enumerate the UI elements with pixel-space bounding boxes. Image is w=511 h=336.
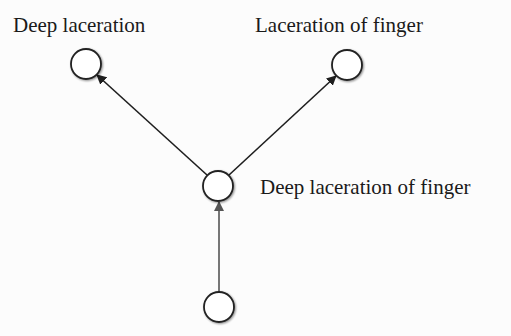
edge-middle-to-laceration-of-finger bbox=[229, 76, 336, 175]
node-laceration-of-finger[interactable] bbox=[332, 50, 362, 80]
node-bottom[interactable] bbox=[204, 292, 234, 322]
diagram-canvas: Deep laceration Laceration of finger Dee… bbox=[0, 0, 511, 336]
edge-middle-to-deep-laceration bbox=[97, 75, 207, 175]
label-deep-laceration-of-finger: Deep laceration of finger bbox=[260, 177, 470, 198]
hierarchy-diagram bbox=[0, 0, 511, 336]
label-deep-laceration: Deep laceration bbox=[13, 15, 145, 36]
label-laceration-of-finger: Laceration of finger bbox=[255, 15, 423, 36]
node-deep-laceration-of-finger[interactable] bbox=[203, 171, 233, 201]
node-deep-laceration[interactable] bbox=[71, 49, 101, 79]
